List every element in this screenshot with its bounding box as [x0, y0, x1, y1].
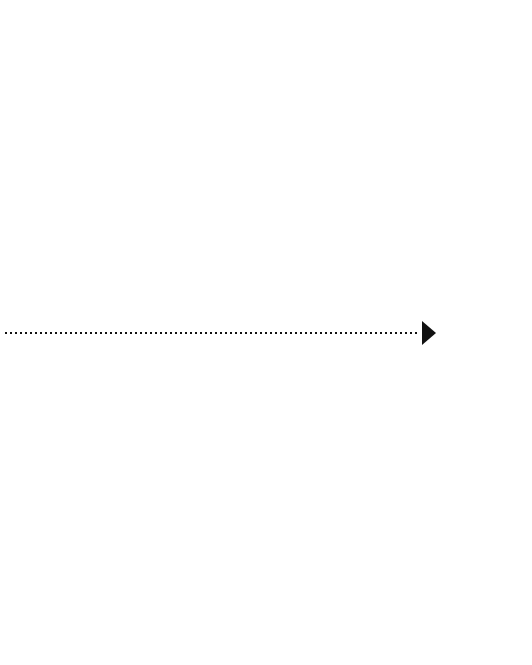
arrow-head-icon	[422, 321, 436, 345]
diagram-canvas	[0, 0, 532, 665]
dotted-arrow	[0, 0, 532, 665]
